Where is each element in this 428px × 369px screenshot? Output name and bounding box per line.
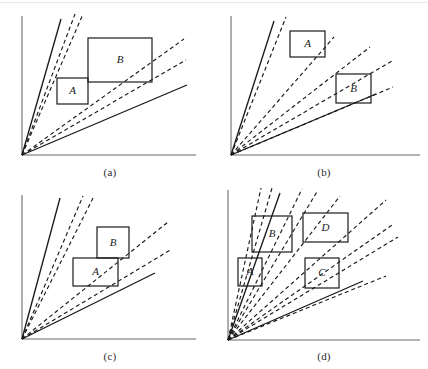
ray-b-s1-solid [231, 21, 274, 155]
box-c [305, 258, 339, 288]
figure-canvas [0, 0, 428, 369]
box-a [57, 78, 88, 104]
ray-a-s1-solid [22, 19, 61, 155]
panel-caption-a: (a) [90, 166, 130, 178]
ray-d-d5-dashed [228, 196, 340, 340]
ray-c-d2-dashed [22, 198, 93, 339]
ray-b-d2-dashed [231, 37, 334, 155]
panel-caption-d: (d) [304, 350, 344, 362]
box-b [252, 216, 292, 252]
panel-caption-b: (b) [304, 166, 344, 178]
ray-b-d3-dashed [231, 47, 370, 155]
panel-caption-c: (c) [90, 350, 130, 362]
ray-d-s2-solid [228, 281, 363, 340]
panel-a [22, 14, 196, 155]
panel-c [22, 195, 196, 339]
panel-b [231, 16, 420, 155]
ray-a-d1-dashed [22, 14, 75, 155]
ray-d-d1-dashed [228, 188, 261, 340]
ray-c-d1-dashed [22, 196, 83, 339]
ray-c-s2-solid [22, 273, 155, 339]
panel-d [228, 188, 420, 340]
box-d [303, 213, 348, 242]
figure-ray-diagrams: AB(a)AB(b)AB(c)ABCD(d) [0, 0, 428, 369]
ray-b-d4-dashed [231, 61, 392, 155]
box-a [73, 258, 118, 286]
box-b [88, 38, 152, 82]
box-b [97, 227, 129, 258]
ray-c-s1-solid [22, 198, 60, 339]
ray-a-d4-dashed [22, 60, 186, 155]
ray-b-d1-dashed [231, 17, 286, 155]
ray-c-d3-dashed [22, 222, 168, 339]
